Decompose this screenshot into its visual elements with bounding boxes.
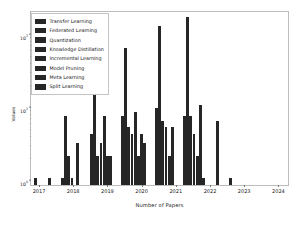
- legend-label: Transfer Learning: [50, 19, 92, 24]
- chart-legend: Transfer LearningFederated LearningQuant…: [31, 13, 109, 95]
- x-tick-label: 2021: [169, 189, 182, 194]
- y-tick-mark: [29, 107, 31, 108]
- chart-figure: Values 100101102 20172018201920202021202…: [0, 0, 307, 228]
- legend-label: Incremental Learning: [50, 56, 102, 61]
- legend-label: Meta Learning: [50, 75, 85, 80]
- y-minor-tick: [30, 114, 31, 115]
- bar: [143, 143, 146, 185]
- legend-item[interactable]: Split Learning: [35, 82, 104, 91]
- legend-swatch: [35, 84, 46, 89]
- x-tick-label: 2019: [101, 189, 114, 194]
- legend-label: Knowledge Distillation: [50, 47, 104, 52]
- legend-swatch: [35, 66, 46, 71]
- y-tick-label: 100: [20, 181, 28, 187]
- legend-item[interactable]: Meta Learning: [35, 73, 104, 82]
- y-minor-tick: [30, 129, 31, 130]
- legend-swatch: [35, 47, 46, 52]
- y-minor-tick: [30, 145, 31, 146]
- x-tick-label: 2018: [67, 189, 80, 194]
- y-tick-label: 102: [20, 35, 28, 41]
- legend-item[interactable]: Model Pruning: [35, 63, 104, 72]
- y-minor-tick: [30, 110, 31, 111]
- legend-label: Quantization: [50, 38, 81, 43]
- legend-swatch: [35, 37, 46, 42]
- bar: [171, 127, 174, 185]
- legend-item[interactable]: Quantization: [35, 35, 104, 44]
- bar: [48, 178, 51, 185]
- bar: [34, 178, 37, 185]
- legend-swatch: [35, 75, 46, 80]
- x-tick-label: 2023: [238, 189, 251, 194]
- legend-item[interactable]: Transfer Learning: [35, 17, 104, 26]
- x-tick-label: 2020: [135, 189, 148, 194]
- y-minor-tick: [30, 118, 31, 119]
- legend-item[interactable]: Knowledge Distillation: [35, 45, 104, 54]
- x-tick-label: 2024: [272, 189, 285, 194]
- x-axis-label: Number of Papers: [30, 202, 289, 208]
- y-minor-tick: [30, 158, 31, 159]
- bar: [76, 143, 79, 185]
- legend-label: Federated Learning: [50, 28, 98, 33]
- y-minor-tick: [30, 136, 31, 137]
- bar: [216, 121, 219, 185]
- bar: [229, 178, 232, 185]
- x-tick-label: 2022: [204, 189, 217, 194]
- bar: [199, 105, 202, 185]
- legend-swatch: [35, 56, 46, 61]
- legend-swatch: [35, 19, 46, 24]
- legend-item[interactable]: Incremental Learning: [35, 54, 104, 63]
- legend-label: Split Learning: [50, 84, 84, 89]
- y-axis-label: Values: [11, 107, 16, 122]
- y-tick-label: 101: [20, 108, 28, 114]
- y-tick-mark: [29, 180, 31, 181]
- legend-item[interactable]: Federated Learning: [35, 26, 104, 35]
- bar: [71, 178, 74, 185]
- x-tick-label: 2017: [33, 189, 46, 194]
- legend-swatch: [35, 28, 46, 33]
- y-minor-tick: [30, 123, 31, 124]
- legend-label: Model Pruning: [50, 66, 85, 71]
- bar: [109, 156, 112, 185]
- bar: [202, 178, 205, 185]
